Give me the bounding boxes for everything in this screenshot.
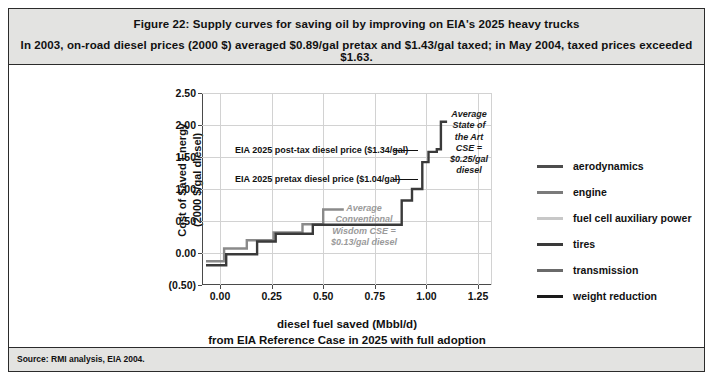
annotation-cw-line1: Average xyxy=(346,203,382,213)
legend-swatch-engine xyxy=(537,191,563,194)
annotation-conventional-wisdom: Average Conventional Wisdom CSE = $0.13/… xyxy=(309,203,419,248)
legend-item-transmission: transmission xyxy=(537,257,697,283)
legend-swatch-weight-reduction xyxy=(537,295,563,298)
legend-swatch-transmission xyxy=(537,269,563,272)
legend-item-tires: tires xyxy=(537,231,697,257)
figure-frame: Figure 22: Supply curves for saving oil … xyxy=(8,8,705,372)
y-tick-1.00: 1.00 xyxy=(176,183,196,195)
annotation-state-of-the-art: Average State of the Art CSE = $0.25/gal… xyxy=(434,109,504,177)
y-tick-0.50: 0.50 xyxy=(176,215,196,227)
legend-swatch-tires xyxy=(537,243,563,246)
legend-label-weight-reduction: weight reduction xyxy=(573,290,657,302)
legend-label-tires: tires xyxy=(573,238,595,250)
x-axis-label-line2: from EIA Reference Case in 2025 with ful… xyxy=(208,334,486,346)
annotation-cw-line2: Conventional xyxy=(335,214,392,224)
annotation-soa-line4: CSE = xyxy=(456,143,482,153)
title-band: Figure 22: Supply curves for saving oil … xyxy=(9,9,704,65)
x-axis-label: diesel fuel saved (Mbbl/d) from EIA Refe… xyxy=(202,317,492,348)
y-tick--0.50: (0.50) xyxy=(169,279,196,291)
legend-swatch-fuel-cell-auxiliary-power xyxy=(537,217,563,220)
y-tickmark--0.50 xyxy=(198,285,202,286)
legend-label-engine: engine xyxy=(573,186,607,198)
x-tick-0.50: 0.50 xyxy=(313,290,333,302)
x-tick-0.00: 0.00 xyxy=(210,290,230,302)
x-axis-label-line1: diesel fuel saved (Mbbl/d) xyxy=(277,318,417,330)
legend-label-fuel-cell-auxiliary-power: fuel cell auxiliary power xyxy=(573,212,691,224)
y-tick-1.50: 1.50 xyxy=(176,151,196,163)
x-tick-1.25: 1.25 xyxy=(468,290,488,302)
x-tickmark-0.00 xyxy=(220,285,221,289)
legend-label-transmission: transmission xyxy=(573,264,638,276)
annotation-post-tax-leader xyxy=(394,150,418,151)
annotation-soa-line3: the Art xyxy=(455,132,484,142)
annotation-cw-line3: Wisdom CSE = xyxy=(332,226,396,236)
plot-area: Cost of Saved Energy (2000 $/gal diesel) xyxy=(9,65,704,349)
annotation-pretax-price: EIA 2025 pretax diesel price ($1.04/gal) xyxy=(235,174,392,185)
x-tick-0.25: 0.25 xyxy=(261,290,281,302)
x-tickmark-1.25 xyxy=(478,285,479,289)
annotation-soa-line5: $0.25/gal xyxy=(450,154,488,164)
annotation-cw-line4: $0.13/gal diesel xyxy=(331,237,397,247)
x-tickmark-0.75 xyxy=(375,285,376,289)
annotation-soa-line1: Average xyxy=(451,109,487,119)
x-tickmark-1.00 xyxy=(426,285,427,289)
legend-item-weight-reduction: weight reduction xyxy=(537,283,697,309)
y-tick-2.50: 2.50 xyxy=(176,87,196,99)
legend-swatch-aerodynamics xyxy=(537,165,563,168)
y-tick-2.00: 2.00 xyxy=(176,119,196,131)
figure-subtitle: In 2003, on-road diesel prices (2000 $) … xyxy=(9,39,704,63)
x-tick-1.00: 1.00 xyxy=(416,290,436,302)
x-tickmark-0.25 xyxy=(272,285,273,289)
legend-item-aerodynamics: aerodynamics xyxy=(537,153,697,179)
source-band: Source: RMI analysis, EIA 2004. xyxy=(9,347,704,371)
annotation-post-tax-price: EIA 2025 post-tax diesel price ($1.34/ga… xyxy=(235,145,392,156)
annotation-soa-line6: diesel xyxy=(456,165,482,175)
figure-page: Figure 22: Supply curves for saving oil … xyxy=(0,0,715,381)
x-tickmark-0.50 xyxy=(323,285,324,289)
legend-label-aerodynamics: aerodynamics xyxy=(573,160,644,172)
x-tick-0.75: 0.75 xyxy=(365,290,385,302)
annotation-pretax-leader xyxy=(394,179,418,180)
chart-legend: aerodynamics engine fuel cell auxiliary … xyxy=(537,153,697,309)
legend-item-engine: engine xyxy=(537,179,697,205)
legend-item-fuel-cell-auxiliary-power: fuel cell auxiliary power xyxy=(537,205,697,231)
annotation-soa-line2: State of xyxy=(452,120,485,130)
y-tick-0.00: 0.00 xyxy=(176,247,196,259)
figure-title: Figure 22: Supply curves for saving oil … xyxy=(9,18,704,30)
source-note: Source: RMI analysis, EIA 2004. xyxy=(17,354,145,364)
